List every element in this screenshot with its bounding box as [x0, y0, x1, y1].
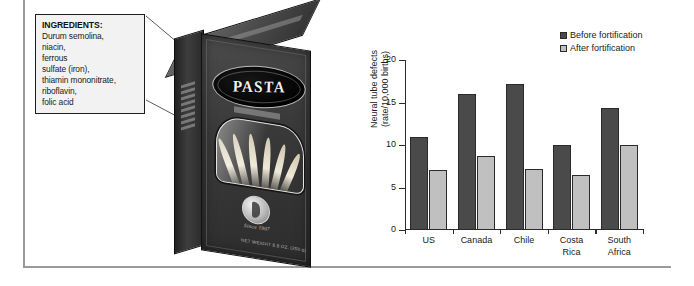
- x-tick-mark: [405, 229, 406, 234]
- legend-label: After fortification: [570, 43, 635, 53]
- bar-before: [506, 84, 524, 230]
- bar-group: [410, 60, 447, 230]
- x-category-label-line: Canada: [461, 235, 493, 245]
- bar-group: [506, 60, 543, 230]
- bar-before: [458, 94, 476, 230]
- y-tick-label: 0: [374, 224, 396, 234]
- ingredients-heading: INGREDIENTS:: [42, 20, 139, 31]
- y-tick-label: 10: [374, 139, 396, 149]
- bar-after: [477, 156, 495, 230]
- y-axis-ticks: 05101520: [352, 8, 405, 230]
- chart-legend: Before fortificationAfter fortification: [560, 30, 643, 56]
- bar-chart: Neural tube defects (rate/10,000 births)…: [352, 8, 688, 272]
- ingredient-line: ferrous: [42, 53, 139, 64]
- legend-item: Before fortification: [560, 30, 643, 40]
- legend-label: Before fortification: [570, 30, 643, 40]
- figure-root: INGREDIENTS: Durum semolina, niacin, fer…: [0, 0, 694, 286]
- legend-swatch: [560, 32, 567, 39]
- legend-item: After fortification: [560, 43, 643, 53]
- x-category-label-line: Rica: [563, 247, 581, 257]
- bar-after: [429, 170, 447, 230]
- pasta-box: PASTA Since 1907 NET WEIGHT 8.8 OZ. (250…: [160, 18, 340, 258]
- ingredient-line: niacin,: [42, 42, 139, 53]
- y-tick-label: 20: [374, 54, 396, 64]
- plot-area: [405, 60, 643, 230]
- x-category-label-line: Chile: [514, 235, 535, 245]
- ingredient-line: sulfate (iron),: [42, 64, 139, 75]
- box-side-panel: [174, 29, 204, 254]
- bar-before: [410, 137, 428, 231]
- x-tick-mark: [548, 229, 549, 234]
- x-category-label-line: Africa: [608, 247, 631, 257]
- x-category-label-line: South: [607, 235, 631, 245]
- x-tick-mark: [500, 229, 501, 234]
- bar-before: [601, 108, 619, 230]
- x-tick-mark: [643, 229, 644, 234]
- y-tick-label: 15: [374, 97, 396, 107]
- y-tick-label: 5: [374, 182, 396, 192]
- bar-group: [458, 60, 495, 230]
- x-tick-mark: [453, 229, 454, 234]
- bar-before: [553, 145, 571, 230]
- ingredient-line: thiamin mononitrate,: [42, 75, 139, 86]
- ingredients-callout: INGREDIENTS: Durum semolina, niacin, fer…: [35, 14, 145, 114]
- bar-after: [572, 175, 590, 230]
- bar-after: [620, 145, 638, 230]
- ingredient-line: riboflavin,: [42, 86, 139, 97]
- legend-swatch: [560, 45, 567, 52]
- x-category-label-line: US: [423, 235, 436, 245]
- x-tick-mark: [595, 229, 596, 234]
- brand-logo-text: PASTA: [231, 77, 287, 96]
- ingredient-line: Durum semolina,: [42, 31, 139, 42]
- wheat-window: [216, 115, 304, 195]
- bar-after: [525, 169, 543, 230]
- x-category-label-line: Costa: [560, 235, 584, 245]
- ingredient-line: folic acid: [42, 97, 139, 108]
- bar-group: [553, 60, 590, 230]
- box-side-text-strips: [181, 81, 195, 149]
- x-category-label: SouthAfrica: [589, 235, 649, 258]
- bar-group: [601, 60, 638, 230]
- frame-left-rule: [23, 0, 25, 268]
